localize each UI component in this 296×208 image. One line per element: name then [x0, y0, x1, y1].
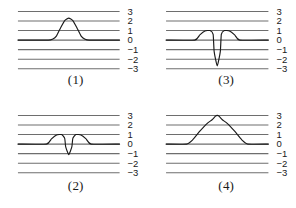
- panel-2: 3210−1−2−3 (2): [0, 104, 148, 208]
- panel-2-tick-labels: 3210−1−2−3: [128, 109, 139, 177]
- panel-3-tick-labels: 3210−1−2−3: [276, 6, 287, 74]
- panel-1: 3210−1−2−3 (1): [0, 0, 148, 104]
- panel-3-caption: (3): [148, 72, 296, 88]
- waveform-figure: 3210−1−2−3 (1) 3210−1−2−3 (3) 3210−1−2−3…: [0, 0, 295, 207]
- panel-2-caption: (2): [0, 178, 148, 194]
- panel-4-curve: [166, 115, 268, 144]
- panel-3: 3210−1−2−3 (3): [148, 0, 296, 104]
- axis-tick-label: −3: [276, 167, 287, 178]
- panel-3-curve: [166, 30, 268, 65]
- panel-1-caption: (1): [0, 72, 148, 88]
- panel-4-tick-labels: 3210−1−2−3: [276, 109, 287, 177]
- panel-4-caption: (4): [148, 178, 296, 194]
- panel-4: 3210−1−2−3 (4): [148, 104, 296, 208]
- axis-tick-label: −3: [128, 167, 139, 178]
- panel-1-tick-labels: 3210−1−2−3: [128, 6, 139, 74]
